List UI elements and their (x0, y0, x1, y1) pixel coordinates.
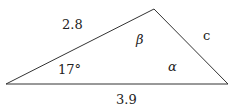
triangle (6, 9, 228, 84)
side-label-2.8: 2.8 (62, 17, 83, 32)
angle-label-17: 17° (58, 62, 81, 77)
side-label-c: c (203, 28, 210, 43)
side-label-3.9: 3.9 (116, 92, 137, 107)
angle-label-beta: β (135, 32, 144, 47)
triangle-diagram: 2.8 c 3.9 17° β α (0, 0, 240, 112)
angle-label-alpha: α (168, 59, 177, 74)
